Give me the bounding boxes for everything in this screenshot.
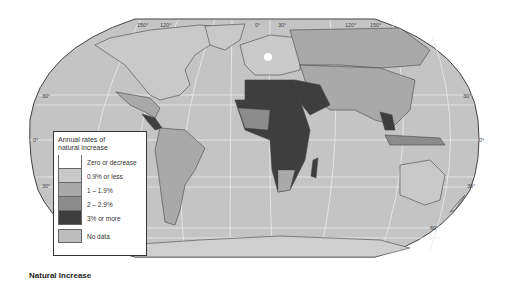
legend-title-line1: Annual rates of bbox=[58, 136, 142, 144]
svg-text:0°: 0° bbox=[479, 137, 484, 143]
legend-item-low: 0.9% or less bbox=[58, 169, 142, 183]
legend-swatch bbox=[58, 197, 82, 211]
legend-swatch bbox=[58, 155, 82, 169]
legend-item-no-data: No data bbox=[58, 229, 142, 243]
svg-text:0°: 0° bbox=[33, 137, 38, 143]
svg-text:60°: 60° bbox=[430, 225, 438, 231]
map-caption: Natural Increase bbox=[29, 271, 91, 280]
svg-text:0°: 0° bbox=[255, 22, 260, 28]
legend-item-1-1.9: 1 – 1.9% bbox=[58, 183, 142, 197]
legend-swatch bbox=[58, 211, 82, 225]
legend: Annual rates of natural increase Zero or… bbox=[53, 131, 147, 256]
svg-text:30°: 30° bbox=[42, 183, 50, 189]
legend-label: No data bbox=[87, 233, 110, 240]
legend-item-2-2.9: 2 – 2.9% bbox=[58, 197, 142, 211]
legend-item-3-plus: 3% or more bbox=[58, 211, 142, 225]
svg-text:150°: 150° bbox=[370, 22, 381, 28]
legend-swatch bbox=[58, 229, 82, 243]
germany-zero bbox=[264, 53, 272, 61]
svg-text:150°: 150° bbox=[137, 22, 148, 28]
svg-text:30°: 30° bbox=[278, 22, 286, 28]
legend-label: 1 – 1.9% bbox=[87, 187, 113, 194]
svg-text:30°: 30° bbox=[42, 93, 50, 99]
legend-label: 2 – 2.9% bbox=[87, 201, 113, 208]
legend-title: Annual rates of natural increase bbox=[58, 136, 142, 152]
svg-text:30°: 30° bbox=[463, 93, 471, 99]
legend-swatch bbox=[58, 183, 82, 197]
legend-swatch bbox=[58, 169, 82, 183]
svg-text:30°: 30° bbox=[467, 183, 475, 189]
svg-text:120°: 120° bbox=[160, 22, 171, 28]
legend-label: 3% or more bbox=[87, 215, 121, 222]
legend-item-zero: Zero or decrease bbox=[58, 155, 142, 169]
legend-label: 0.9% or less bbox=[87, 173, 123, 180]
legend-label: Zero or decrease bbox=[87, 159, 137, 166]
legend-title-line2: natural increase bbox=[58, 144, 142, 152]
svg-text:120°: 120° bbox=[345, 22, 356, 28]
